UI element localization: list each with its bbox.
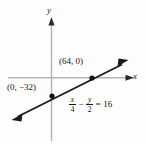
point-dot-y-intercept [49,93,54,98]
equation-right-hand-side: 16 [103,100,112,109]
fraction-numerator-x: x [70,96,75,104]
minus-operator: − [79,100,84,109]
coordinate-graph-figure: y x (64, 0) (0, −32) x 4 − y 2 = 16 [0,0,147,144]
equals-sign: = [96,100,101,109]
line-arrowhead-right [118,59,129,67]
y-axis-arrowhead [48,17,54,26]
graph-canvas [0,0,147,144]
line-arrowhead-left [12,114,23,122]
point-label-x-intercept: (64, 0) [59,57,83,66]
y-axis-label: y [47,6,51,15]
point-label-y-intercept: (0, −32) [7,83,36,92]
equation-label: x 4 − y 2 = 16 [68,96,112,114]
fraction-denominator-4: 4 [70,106,76,114]
point-dot-x-intercept [89,75,94,80]
fraction-x-over-4: x 4 [69,96,76,114]
x-axis-label: x [133,72,137,81]
fraction-numerator-y: y [87,96,92,104]
fraction-denominator-2: 2 [87,106,93,114]
fraction-y-over-2: y 2 [86,96,93,114]
